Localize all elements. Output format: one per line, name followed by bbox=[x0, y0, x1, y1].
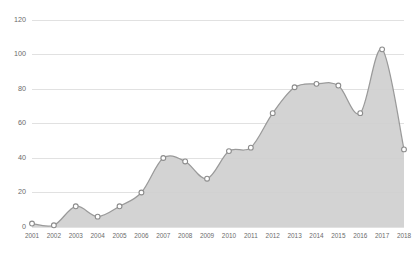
x-axis-tick-label: 2011 bbox=[244, 232, 258, 239]
x-axis-tick-label: 2009 bbox=[200, 232, 215, 239]
y-axis-tick-label: 0 bbox=[22, 222, 26, 231]
y-axis-tick-label: 80 bbox=[18, 84, 26, 93]
series-area-fill bbox=[32, 49, 404, 227]
data-point-marker[interactable]: 2015: 82 bbox=[336, 83, 341, 88]
x-axis-tick-labels: 2001200220032004200520062007200820092010… bbox=[25, 232, 412, 239]
data-point-marker[interactable]: 2001: 2 bbox=[30, 221, 35, 226]
x-axis-tick-label: 2001 bbox=[25, 232, 40, 239]
x-axis-tick-label: 2013 bbox=[287, 232, 302, 239]
x-axis-tick-label: 2017 bbox=[375, 232, 390, 239]
y-axis-tick-labels: 020406080100120 bbox=[14, 15, 26, 231]
y-axis-tick-label: 20 bbox=[18, 187, 26, 196]
x-axis-tick-label: 2015 bbox=[331, 232, 346, 239]
area-chart: 020406080100120 2001: 22002: 12003: 1220… bbox=[0, 0, 415, 255]
y-axis-tick-label: 120 bbox=[14, 15, 26, 24]
data-point-marker[interactable]: 2014: 83 bbox=[314, 81, 319, 86]
data-point-marker[interactable]: 2006: 20 bbox=[139, 190, 144, 195]
y-axis-tick-label: 60 bbox=[18, 118, 26, 127]
data-point-marker[interactable]: 2016: 66 bbox=[358, 111, 363, 116]
x-axis-tick-label: 2004 bbox=[91, 232, 106, 239]
chart-container: 020406080100120 2001: 22002: 12003: 1220… bbox=[0, 0, 415, 255]
data-point-marker[interactable]: 2013: 81 bbox=[292, 85, 297, 90]
x-axis-tick-label: 2002 bbox=[47, 232, 62, 239]
data-point-marker[interactable]: 2012: 66 bbox=[270, 111, 275, 116]
x-axis-tick-label: 2007 bbox=[156, 232, 171, 239]
data-point-marker[interactable]: 2017: 103 bbox=[380, 47, 385, 52]
y-axis-tick-label: 100 bbox=[14, 49, 26, 58]
data-point-marker[interactable]: 2008: 38 bbox=[183, 159, 188, 164]
x-axis-tick-label: 2014 bbox=[309, 232, 324, 239]
data-point-marker[interactable]: 2010: 44 bbox=[227, 149, 232, 154]
data-point-marker[interactable]: 2003: 12 bbox=[73, 204, 78, 209]
x-axis-tick-label: 2016 bbox=[353, 232, 368, 239]
data-point-marker[interactable]: 2005: 12 bbox=[117, 204, 122, 209]
data-point-marker[interactable]: 2018: 45 bbox=[402, 147, 407, 152]
x-axis-tick-label: 2010 bbox=[222, 232, 237, 239]
x-axis-tick-label: 2018 bbox=[397, 232, 412, 239]
x-axis-tick-label: 2012 bbox=[266, 232, 281, 239]
data-point-marker[interactable]: 2009: 28 bbox=[205, 176, 210, 181]
y-axis-tick-label: 40 bbox=[18, 153, 26, 162]
x-axis-tick-label: 2008 bbox=[178, 232, 193, 239]
data-point-marker[interactable]: 2007: 40 bbox=[161, 156, 166, 161]
data-point-marker[interactable]: 2011: 46 bbox=[248, 145, 253, 150]
x-axis-tick-label: 2006 bbox=[134, 232, 149, 239]
x-axis-tick-label: 2005 bbox=[112, 232, 127, 239]
data-point-marker[interactable]: 2004: 6 bbox=[95, 214, 100, 219]
x-axis-tick-label: 2003 bbox=[69, 232, 84, 239]
data-point-marker[interactable]: 2002: 1 bbox=[51, 223, 56, 228]
